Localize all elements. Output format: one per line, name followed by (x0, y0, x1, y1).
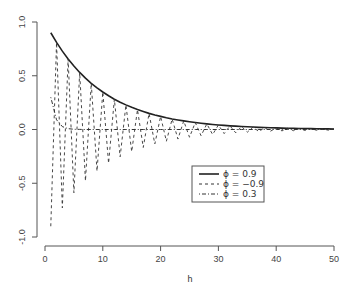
x-tick-label: 10 (98, 254, 108, 264)
y-tick-label: -1.0 (17, 229, 27, 245)
x-tick-label: 40 (271, 254, 281, 264)
y-axis: 1.00.50.0-0.5-1.0 (17, 16, 37, 245)
legend-label: ϕ = −0.9 (223, 179, 264, 189)
legend: ϕ = 0.9 ϕ = −0.9 ϕ = 0.3 (192, 166, 264, 202)
x-tick-label: 20 (156, 254, 166, 264)
y-tick-label: 1.0 (17, 16, 27, 29)
series-line-dotdash (51, 97, 334, 129)
legend-label: ϕ = 0.9 (223, 169, 257, 179)
y-tick-label: 0.0 (17, 123, 27, 136)
y-tick-label: -0.5 (17, 175, 27, 191)
x-axis-title: h (187, 274, 192, 284)
x-tick-label: 0 (42, 254, 47, 264)
acf-chart: 1.00.50.0-0.5-1.0 01020304050 h ϕ = 0.9 … (0, 0, 353, 293)
y-tick-label: 0.5 (17, 69, 27, 82)
x-tick-label: 30 (213, 254, 223, 264)
x-axis: 01020304050 (42, 246, 339, 264)
legend-label: ϕ = 0.3 (223, 189, 257, 199)
x-tick-label: 50 (329, 254, 339, 264)
